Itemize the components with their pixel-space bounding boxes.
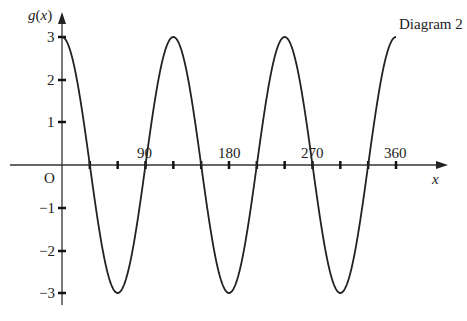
- y-tick-label-neg2: −2: [39, 243, 55, 259]
- origin-label: O: [44, 170, 55, 186]
- x-tick-label-180: 180: [218, 145, 241, 161]
- x-tick-label-270: 270: [301, 145, 324, 161]
- y-tick-label-3: 3: [47, 29, 55, 45]
- y-tick-label-neg3: −3: [39, 285, 55, 301]
- x-tick-label-90: 90: [137, 145, 152, 161]
- chart-canvas: Diagram 2 g(x) x O 90 180 270 360 3 2 1 …: [0, 0, 467, 321]
- y-tick-label-1: 1: [47, 114, 55, 130]
- diagram-title: Diagram 2: [399, 16, 463, 32]
- y-axis-arrow-icon: [58, 12, 66, 24]
- x-axis-arrow-icon: [436, 161, 448, 169]
- y-tick-label-neg1: −1: [39, 200, 55, 216]
- x-tick-label-360: 360: [384, 145, 407, 161]
- y-axis: [58, 12, 66, 305]
- y-tick-label-2: 2: [47, 72, 55, 88]
- x-axis-label: x: [431, 171, 439, 187]
- y-axis-label: g(x): [28, 7, 52, 24]
